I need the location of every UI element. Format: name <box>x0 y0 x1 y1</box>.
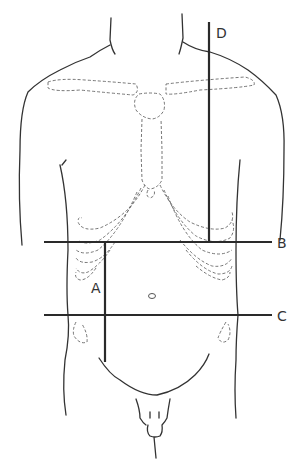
costal-right-2 <box>164 190 234 242</box>
arm-left-inner <box>62 160 66 165</box>
label-a: A <box>91 280 101 296</box>
costal-right-3 <box>168 196 232 254</box>
neck-right-outline <box>179 14 183 54</box>
label-d: D <box>216 25 227 41</box>
label-c: C <box>277 308 287 324</box>
torso-left-outline <box>60 165 69 415</box>
manubrium <box>135 93 165 119</box>
umbilicus <box>149 294 156 299</box>
clavicle-left <box>48 79 137 95</box>
clavicle-right <box>166 77 254 94</box>
neck-left-outline <box>110 18 115 54</box>
asis-left <box>73 322 87 343</box>
costal-left-3 <box>76 192 137 253</box>
costal-left-6 <box>76 268 97 280</box>
shoulder-left-outline <box>19 45 110 245</box>
genital-outline <box>136 399 170 458</box>
anatomy-diagram: D B C A <box>0 0 295 462</box>
genital-detail <box>150 412 159 418</box>
shoulder-right-outline <box>183 42 284 240</box>
costal-left-2 <box>78 188 141 243</box>
asis-right <box>218 322 230 342</box>
sternum-body <box>141 119 162 189</box>
torso-right-outline <box>235 160 240 418</box>
costal-right-1 <box>160 185 233 229</box>
costal-left-1 <box>78 185 145 229</box>
costal-right-5 <box>186 250 232 274</box>
xiphoid <box>147 190 155 198</box>
label-b: B <box>277 235 287 251</box>
groin-outline <box>99 354 209 395</box>
